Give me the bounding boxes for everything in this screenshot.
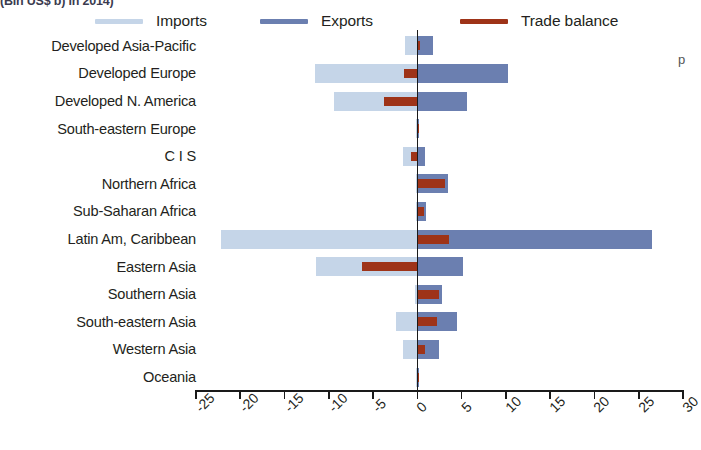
bar-trade-balance — [417, 179, 444, 188]
legend-imports[interactable]: Imports — [95, 12, 207, 30]
bar-exports — [417, 230, 652, 249]
legend-exports[interactable]: Exports — [260, 12, 373, 30]
bar-exports — [417, 64, 507, 83]
bar-trade-balance — [404, 69, 417, 78]
bar-imports — [221, 230, 418, 249]
legend-trade-balance[interactable]: Trade balance — [460, 12, 618, 30]
legend-imports-label: Imports — [156, 12, 207, 30]
chart-legend: ImportsExportsTrade balance — [0, 12, 696, 30]
bar-trade-balance — [417, 345, 425, 354]
bar-trade-balance — [362, 262, 417, 271]
legend-exports-label: Exports — [321, 12, 373, 30]
bars-canvas — [0, 30, 696, 390]
bar-trade-balance — [417, 235, 449, 244]
bar-trade-balance — [417, 207, 423, 216]
bar-imports — [405, 36, 417, 55]
legend-exports-swatch-icon — [260, 19, 308, 24]
x-axis-line — [196, 390, 683, 392]
legend-trade-balance-label: Trade balance — [521, 12, 618, 30]
bar-imports — [403, 340, 417, 359]
bar-trade-balance — [417, 290, 438, 299]
bar-exports — [417, 257, 463, 276]
bar-imports — [396, 312, 417, 331]
x-axis-tick — [638, 390, 640, 399]
bar-trade-balance — [384, 97, 418, 106]
x-axis-tick — [328, 390, 330, 399]
bar-trade-balance — [417, 317, 436, 326]
zero-axis-line — [417, 30, 419, 398]
x-axis-tick-label: 0 — [413, 398, 430, 415]
bar-exports — [417, 92, 467, 111]
plot-area: Developed Asia-PacificDeveloped EuropeDe… — [0, 30, 696, 400]
x-axis: -25-20-15-10-5051015202530 — [0, 390, 696, 450]
x-axis-tick — [461, 390, 463, 399]
bar-imports — [315, 64, 418, 83]
legend-imports-swatch-icon — [95, 19, 143, 24]
chart-title: (Bln US$ b) in 2014) — [0, 0, 420, 10]
x-axis-tick — [284, 390, 286, 399]
bar-exports — [417, 147, 425, 166]
x-axis-tick-label: 5 — [458, 398, 475, 415]
legend-trade-balance-swatch-icon — [460, 19, 508, 24]
